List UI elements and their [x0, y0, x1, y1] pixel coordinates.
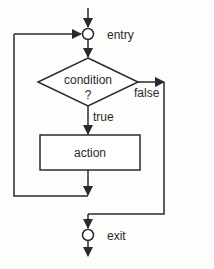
true-label: true: [93, 110, 114, 124]
flowchart: entry condition ? true action false exit: [0, 0, 214, 269]
false-label: false: [134, 86, 160, 100]
loop-back-line: [14, 34, 88, 196]
entry-label: entry: [107, 28, 134, 42]
entry-node: [83, 29, 94, 40]
exit-node: [83, 230, 94, 241]
action-label: action: [74, 146, 106, 160]
condition-label: condition: [64, 73, 112, 87]
condition-question-mark: ?: [85, 88, 92, 102]
exit-label: exit: [107, 229, 126, 243]
